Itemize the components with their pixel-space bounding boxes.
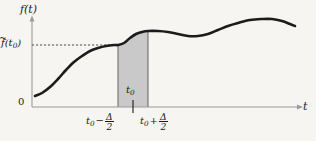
right-bound-fraction: Δ2 xyxy=(159,112,168,132)
y-axis-title-arg: (t) xyxy=(24,3,37,16)
right-bound-subscript: 0 xyxy=(144,119,149,128)
right-bound-denominator: 2 xyxy=(159,122,168,131)
y-tick-label: ~f(t0) xyxy=(1,38,21,49)
origin-label: 0 xyxy=(18,97,24,107)
tilde-accent-icon: ~ xyxy=(0,34,6,43)
y-tick-accented-f: ~f xyxy=(1,38,5,48)
y-axis-arrowhead xyxy=(30,16,35,22)
function-curve xyxy=(35,19,295,96)
left-bound-subscript: 0 xyxy=(90,119,95,128)
y-tick-close: ) xyxy=(17,37,21,48)
x-axis-title: t xyxy=(303,101,307,112)
right-bound-label: t0+Δ2 xyxy=(140,112,168,132)
window-center-subscript: 0 xyxy=(130,88,135,97)
left-bound-denominator: 2 xyxy=(105,122,114,131)
left-bound-label: t0−Δ2 xyxy=(86,112,114,132)
left-bound-fraction: Δ2 xyxy=(105,112,114,132)
function-plot-figure: f(t) t 0 ~f(t0) t0 t0−Δ2 t0+Δ2 xyxy=(0,0,316,141)
y-axis-title: f(t) xyxy=(20,4,37,15)
left-bound-operator: − xyxy=(95,115,105,126)
right-bound-operator: + xyxy=(149,115,159,126)
window-center-label: t0 xyxy=(126,85,135,96)
